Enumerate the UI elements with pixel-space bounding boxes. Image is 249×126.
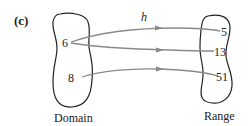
mapping-diagram: [0, 0, 249, 126]
range-oval: [200, 15, 232, 103]
arrowhead-icon: [156, 67, 164, 72]
domain-element-8: 8: [68, 72, 74, 84]
range-label: Range: [204, 110, 235, 122]
domain-oval: [53, 13, 93, 107]
domain-label: Domain: [54, 112, 93, 124]
domain-element-6: 6: [62, 37, 68, 49]
arrowhead-icon: [156, 48, 164, 53]
part-label: (c): [14, 14, 28, 27]
range-element-5: 5: [221, 26, 227, 38]
function-label: h: [141, 11, 147, 23]
arrow-8-to-51: [82, 69, 218, 77]
range-element-51: 51: [216, 71, 228, 83]
range-element-13: 13: [214, 46, 226, 58]
arrow-6-to-5: [71, 28, 220, 42]
arrow-6-to-13: [71, 43, 214, 51]
arrowhead-icon: [155, 26, 163, 31]
